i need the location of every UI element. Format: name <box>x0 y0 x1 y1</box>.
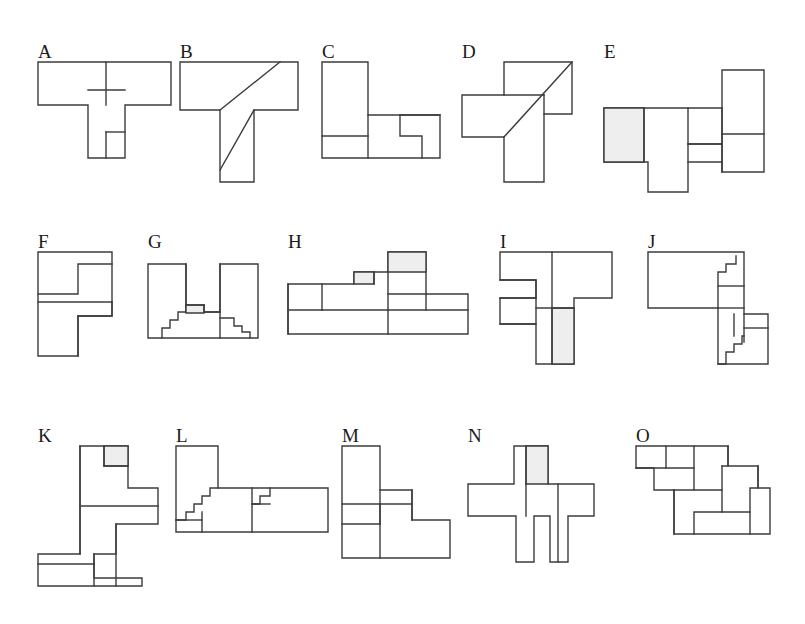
figure-shape-M <box>342 446 472 566</box>
figure-label-J: J <box>648 232 655 251</box>
figure-label-K: K <box>38 426 52 445</box>
figure-shape-L <box>176 446 341 546</box>
figure-label-G: G <box>148 232 162 251</box>
figure-label-N: N <box>468 426 482 445</box>
figure-label-D: D <box>462 42 476 61</box>
figure-shape-H <box>288 252 478 352</box>
figure-shape-K <box>38 446 178 586</box>
figure-label-O: O <box>636 426 650 445</box>
figure-label-B: B <box>180 42 193 61</box>
figure-shape-I <box>500 252 630 372</box>
figure-shape-D <box>462 62 602 192</box>
figure-label-M: M <box>342 426 359 445</box>
figure-shape-J <box>648 252 778 372</box>
figure-sheet: A B C D <box>0 0 805 624</box>
figure-label-L: L <box>176 426 188 445</box>
figure-label-I: I <box>500 232 506 251</box>
figure-label-A: A <box>38 42 52 61</box>
figure-shape-A <box>38 62 178 172</box>
figure-shape-O <box>636 446 781 556</box>
figure-shape-E <box>604 62 779 192</box>
figure-label-E: E <box>604 42 616 61</box>
figure-shape-B <box>180 62 320 192</box>
figure-label-F: F <box>38 232 49 251</box>
figure-shape-C <box>322 62 462 172</box>
figure-label-C: C <box>322 42 335 61</box>
figure-label-H: H <box>288 232 302 251</box>
figure-shape-N <box>468 446 613 576</box>
figure-shape-F <box>38 252 148 367</box>
figure-shape-G <box>148 252 268 362</box>
